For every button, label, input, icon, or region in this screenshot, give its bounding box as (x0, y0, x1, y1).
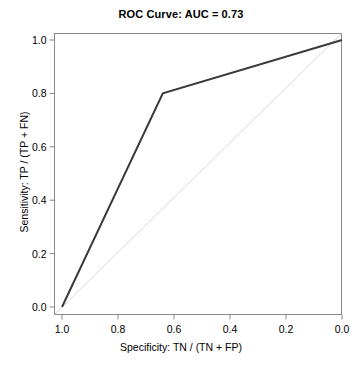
y-tick-label: 1.0 (0, 34, 47, 46)
y-tick-label: 0.0 (0, 301, 47, 313)
x-axis-ticks (62, 315, 342, 320)
x-tick-label: 0.4 (223, 323, 238, 335)
y-axis-title: Sensitivity: TP / (TP + FN) (18, 72, 30, 272)
x-tick-label: 0.6 (167, 323, 182, 335)
chance-diagonal-line (55, 34, 342, 315)
x-tick-label: 0.8 (111, 323, 126, 335)
data-series-group (55, 34, 343, 315)
roc-curve-line (62, 40, 342, 307)
plot-canvas (0, 0, 362, 368)
y-axis-ticks (50, 40, 55, 307)
roc-chart: ROC Curve: AUC = 0.73 1.00.80.60.40.20.0… (0, 0, 362, 368)
x-tick-label: 1.0 (55, 323, 70, 335)
x-tick-label: 0.2 (279, 323, 294, 335)
x-tick-label: 0.0 (335, 323, 350, 335)
x-axis-title: Specificity: TN / (TN + FP) (0, 341, 362, 353)
